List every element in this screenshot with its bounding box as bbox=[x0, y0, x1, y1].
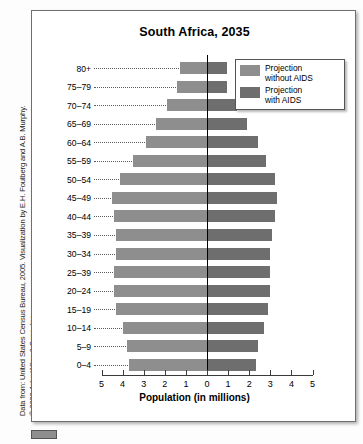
x-axis-tick-label: 4 bbox=[284, 379, 298, 389]
leader-line bbox=[94, 68, 179, 70]
leader-line bbox=[94, 105, 166, 107]
leader-line bbox=[94, 87, 176, 89]
x-axis-tick bbox=[102, 370, 103, 375]
x-axis-tick bbox=[291, 370, 292, 375]
leader-line bbox=[94, 272, 113, 274]
bar-with-aids bbox=[207, 229, 272, 241]
leader-line bbox=[94, 161, 132, 163]
attribution-line-1: Data from: United States Census Bureau, … bbox=[18, 8, 28, 416]
bar-with-aids bbox=[207, 99, 237, 111]
x-axis-tick bbox=[144, 370, 145, 375]
age-group-label: 30–34 bbox=[33, 249, 91, 259]
bar-without-aids bbox=[127, 340, 207, 352]
bar-with-aids bbox=[207, 62, 227, 74]
bar-with-aids bbox=[207, 136, 258, 148]
chart-panel: South Africa, 2035 80+75–7970–7465–6960–… bbox=[31, 10, 356, 422]
bar-without-aids bbox=[133, 155, 207, 167]
legend-swatch-without-aids-icon bbox=[240, 65, 260, 76]
bar-with-aids bbox=[207, 81, 227, 93]
legend-swatch-with-aids-icon bbox=[240, 87, 260, 98]
zero-axis-line bbox=[207, 55, 208, 375]
bar-without-aids bbox=[114, 285, 207, 297]
leader-line bbox=[94, 365, 128, 367]
legend-item-with-aids: Projection with AIDS bbox=[240, 86, 340, 105]
leader-line bbox=[94, 198, 111, 200]
x-axis-tick-label: 4 bbox=[116, 379, 130, 389]
bar-without-aids bbox=[180, 62, 207, 74]
bar-without-aids bbox=[116, 229, 207, 241]
age-group-label: 40–44 bbox=[33, 212, 91, 222]
bar-without-aids bbox=[112, 192, 207, 204]
x-axis-tick bbox=[313, 370, 314, 375]
bar-without-aids bbox=[156, 118, 207, 130]
x-axis-tick-label: 3 bbox=[137, 379, 151, 389]
x-axis-tick-label: 5 bbox=[306, 379, 320, 389]
bar-without-aids bbox=[116, 248, 207, 260]
age-group-label: 35–39 bbox=[33, 230, 91, 240]
bar-with-aids bbox=[207, 155, 266, 167]
bar-without-aids bbox=[167, 99, 207, 111]
age-group-label: 0–4 bbox=[33, 360, 91, 370]
age-group-label: 80+ bbox=[33, 64, 91, 74]
bar-with-aids bbox=[207, 118, 247, 130]
leader-line bbox=[94, 235, 115, 237]
bar-without-aids bbox=[146, 136, 207, 148]
footer-swatch-mark bbox=[31, 430, 57, 439]
leader-line bbox=[94, 328, 122, 330]
x-axis-title: Population (in millions) bbox=[32, 392, 357, 403]
bar-with-aids bbox=[207, 340, 258, 352]
legend-label-without-aids: Projection without AIDS bbox=[265, 64, 313, 83]
x-axis-tick bbox=[207, 370, 208, 375]
bar-without-aids bbox=[116, 303, 207, 315]
bar-with-aids bbox=[207, 192, 277, 204]
x-axis-tick-label: 5 bbox=[95, 379, 109, 389]
leader-line bbox=[94, 142, 145, 144]
bar-with-aids bbox=[207, 359, 256, 371]
leader-line bbox=[94, 346, 126, 348]
bar-without-aids bbox=[114, 210, 207, 222]
age-group-label: 10–14 bbox=[33, 323, 91, 333]
x-axis-tick-label: 1 bbox=[179, 379, 193, 389]
x-axis-tick-label: 0 bbox=[200, 379, 214, 389]
age-group-label: 25–39 bbox=[33, 268, 91, 278]
bar-with-aids bbox=[207, 173, 275, 185]
age-group-label: 15–19 bbox=[33, 305, 91, 315]
age-group-label: 50–54 bbox=[33, 175, 91, 185]
leader-line bbox=[94, 291, 113, 293]
leader-line bbox=[94, 179, 119, 181]
leader-line bbox=[94, 254, 115, 256]
bar-with-aids bbox=[207, 303, 268, 315]
leader-line bbox=[94, 124, 155, 126]
age-group-label: 65–69 bbox=[33, 119, 91, 129]
bar-without-aids bbox=[129, 359, 207, 371]
age-group-label: 45–49 bbox=[33, 193, 91, 203]
chart-legend: Projection without AIDS Projection with … bbox=[235, 59, 345, 110]
x-axis-tick-label: 2 bbox=[242, 379, 256, 389]
x-axis-tick-label: 3 bbox=[263, 379, 277, 389]
legend-item-without-aids: Projection without AIDS bbox=[240, 64, 340, 83]
age-group-label: 5–9 bbox=[33, 342, 91, 352]
bar-without-aids bbox=[123, 322, 207, 334]
bar-with-aids bbox=[207, 248, 270, 260]
age-group-label: 75–79 bbox=[33, 82, 91, 92]
age-group-label: 20–24 bbox=[33, 286, 91, 296]
x-axis-tick bbox=[186, 370, 187, 375]
age-group-label: 70–74 bbox=[33, 101, 91, 111]
bar-with-aids bbox=[207, 266, 270, 278]
x-axis-tick-label: 2 bbox=[158, 379, 172, 389]
bar-without-aids bbox=[120, 173, 207, 185]
age-group-label: 55–59 bbox=[33, 156, 91, 166]
x-axis-tick bbox=[228, 370, 229, 375]
bar-without-aids bbox=[114, 266, 207, 278]
bar-with-aids bbox=[207, 322, 264, 334]
x-axis-tick bbox=[249, 370, 250, 375]
x-axis-tick bbox=[165, 370, 166, 375]
x-axis-tick-label: 1 bbox=[221, 379, 235, 389]
leader-line bbox=[94, 309, 115, 311]
bar-without-aids bbox=[177, 81, 207, 93]
bar-with-aids bbox=[207, 210, 275, 222]
x-axis-tick bbox=[123, 370, 124, 375]
age-group-label: 60–64 bbox=[33, 138, 91, 148]
x-axis-line bbox=[102, 375, 313, 376]
figure-root: Data from: United States Census Bureau, … bbox=[0, 0, 363, 444]
